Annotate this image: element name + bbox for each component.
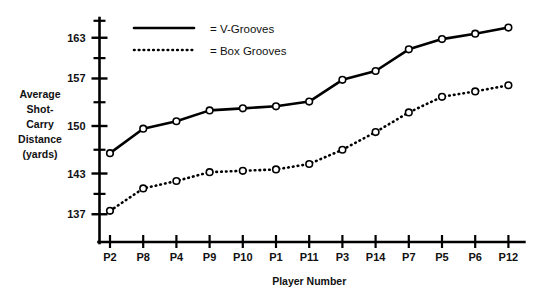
x-tick-label-p3: P3 [336,251,349,263]
x-tick-label-p6: P6 [468,251,481,263]
data-point-v-grooves-p5 [439,36,446,43]
legend-label-v-grooves: = V-Grooves [210,23,274,35]
x-tick-label-p11: P11 [300,251,319,263]
y-axis-title-line: Distance [18,133,62,145]
line-chart: 137143150157163 P2P8P4P9P10P1P11P3P14P7P… [0,0,541,294]
x-tick-label-p14: P14 [366,251,386,263]
data-point-box-grooves-p6 [472,88,479,95]
data-point-box-grooves-p8 [140,185,147,192]
data-point-box-grooves-p14 [372,129,379,136]
x-axis: P2P8P4P9P10P1P11P3P14P7P5P6P12 [99,235,525,263]
data-point-v-grooves-p9 [206,107,213,114]
data-point-box-grooves-p11 [306,161,313,168]
series-line-v-grooves [110,28,508,154]
data-point-box-grooves-p1 [273,166,280,173]
y-tick-label: 137 [67,208,85,220]
data-point-v-grooves-p4 [173,118,180,125]
y-axis: 137143150157163 [67,18,107,243]
data-point-box-grooves-p2 [107,208,114,215]
data-point-v-grooves-p7 [406,46,413,53]
data-point-box-grooves-p9 [206,169,213,176]
data-point-v-grooves-p1 [273,103,280,110]
x-tick-label-p4: P4 [170,251,184,263]
y-tick-label: 143 [67,168,85,180]
x-tick-label-p7: P7 [402,251,415,263]
data-point-box-grooves-p3 [339,146,346,153]
x-tick-label-p8: P8 [136,251,149,263]
x-tick-label-p2: P2 [103,251,116,263]
data-point-box-grooves-p4 [173,178,180,185]
chart-container: 137143150157163 P2P8P4P9P10P1P11P3P14P7P… [0,0,541,294]
y-tick-label: 150 [67,120,85,132]
data-point-v-grooves-p3 [339,77,346,84]
x-tick-label-p1: P1 [269,251,282,263]
y-axis-title-line: (yards) [22,148,57,160]
legend-label-box-grooves: = Box Grooves [210,45,287,57]
data-point-v-grooves-p14 [372,68,379,75]
data-point-v-grooves-p12 [505,24,512,31]
chart-legend: = V-Grooves= Box Grooves [134,23,287,57]
x-tick-label-p5: P5 [435,251,448,263]
y-tick-label: 163 [67,32,85,44]
data-point-v-grooves-p6 [472,30,479,37]
x-tick-label-p10: P10 [233,251,253,263]
y-axis-title-line: Shot- [27,103,54,115]
data-point-v-grooves-p11 [306,98,313,105]
series-layer [107,24,512,214]
data-point-v-grooves-p2 [107,150,114,157]
x-axis-title: Player Number [272,275,346,287]
data-point-box-grooves-p10 [240,168,247,175]
data-point-box-grooves-p12 [505,82,512,89]
data-point-v-grooves-p10 [240,105,247,112]
data-point-v-grooves-p8 [140,125,147,132]
y-axis-title-line: Average [19,88,60,100]
y-tick-label: 157 [67,72,85,84]
data-point-box-grooves-p7 [406,109,413,116]
x-tick-label-p12: P12 [499,251,519,263]
data-point-box-grooves-p5 [439,94,446,101]
x-tick-label-p9: P9 [203,251,216,263]
y-axis-title-line: Carry [26,118,54,130]
